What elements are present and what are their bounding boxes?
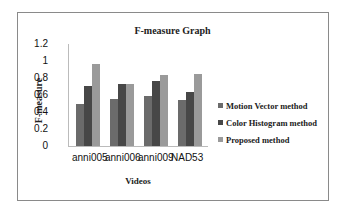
- bar: [126, 84, 134, 146]
- bar: [84, 86, 92, 146]
- legend-item: Proposed method: [218, 131, 317, 148]
- x-tick: NAD53: [171, 152, 203, 163]
- y-tick: 1: [28, 55, 48, 66]
- x-tick: anni005: [72, 152, 108, 163]
- bar: [194, 74, 202, 146]
- bar: [76, 104, 84, 146]
- chart-title: F-measure Graph: [0, 25, 345, 36]
- legend-swatch-icon: [218, 103, 223, 108]
- y-tick: 0.4: [28, 106, 48, 117]
- x-axis-label: Videos: [0, 176, 276, 186]
- legend-label: Proposed method: [226, 135, 289, 145]
- legend-label: Motion Vector method: [226, 101, 308, 111]
- x-tick: anni006: [105, 152, 141, 163]
- bar: [144, 96, 152, 146]
- legend-item: Motion Vector method: [218, 97, 317, 114]
- x-tick: anni009: [138, 152, 174, 163]
- y-tick: 0.8: [28, 72, 48, 83]
- bar: [118, 84, 126, 146]
- y-tick: 0: [28, 140, 48, 151]
- legend-item: Color Histogram method: [218, 114, 317, 131]
- bar: [160, 75, 168, 146]
- x-axis-line: [68, 146, 208, 147]
- legend: Motion Vector methodColor Histogram meth…: [218, 97, 317, 148]
- legend-label: Color Histogram method: [226, 118, 317, 128]
- legend-swatch-icon: [218, 137, 223, 142]
- bar: [92, 64, 100, 146]
- bar: [152, 81, 160, 146]
- bar: [178, 100, 186, 146]
- y-axis-line: [68, 44, 69, 147]
- bar: [110, 99, 118, 146]
- bar: [186, 92, 194, 146]
- y-tick: 0.6: [28, 89, 48, 100]
- y-tick: 0.2: [28, 123, 48, 134]
- y-tick: 1.2: [28, 38, 48, 49]
- legend-swatch-icon: [218, 120, 223, 125]
